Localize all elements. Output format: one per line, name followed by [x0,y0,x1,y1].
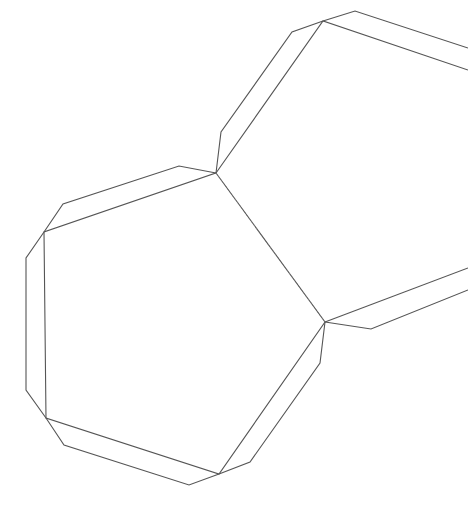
lower-right-face [325,268,468,322]
net-svg [0,0,468,518]
main-face [44,173,325,474]
upper-right-face [216,21,468,173]
flap-upper-top [323,11,468,48]
flap-lower-right [325,290,468,329]
papercraft-net-diagram [0,0,468,518]
flap-bottom [46,418,219,485]
flap-left [26,232,46,418]
flap-top-left [44,166,216,232]
